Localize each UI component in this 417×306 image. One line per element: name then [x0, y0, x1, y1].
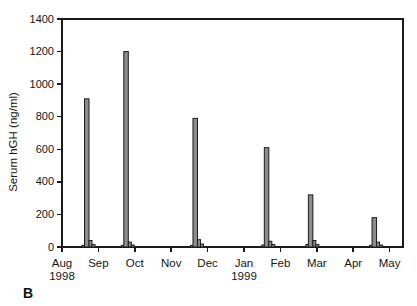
x-year-label: 1999: [231, 270, 257, 282]
bar-peak: [264, 148, 269, 247]
panel-label: B: [23, 285, 33, 301]
bar-peak: [85, 99, 90, 247]
x-tick-label: Apr: [344, 257, 362, 269]
y-tick-label: 800: [36, 110, 54, 122]
bar-minor: [316, 245, 319, 247]
x-tick-label: Aug: [52, 257, 72, 269]
serum-hgh-chart: 0200400600800100012001400Aug1998SepOctNo…: [0, 0, 417, 306]
bar-peak: [308, 195, 313, 247]
bar-minor: [380, 245, 383, 247]
y-tick-label: 0: [48, 241, 54, 253]
x-tick-label: Nov: [161, 257, 182, 269]
x-tick-label: Mar: [307, 257, 327, 269]
bar-minor: [272, 245, 275, 247]
bar-minor: [131, 245, 134, 247]
x-tick-label: May: [379, 257, 401, 269]
y-axis-title: Serum hGH (ng/ml): [7, 92, 19, 192]
x-tick-label: Dec: [197, 257, 218, 269]
plot-border: [62, 19, 403, 247]
x-tick-label: Sep: [88, 257, 108, 269]
y-tick-label: 400: [36, 175, 54, 187]
x-tick-label: Feb: [270, 257, 290, 269]
y-tick-label: 1000: [30, 78, 54, 90]
y-tick-label: 200: [36, 208, 54, 220]
x-tick-label: Jan: [235, 257, 254, 269]
bar-peak: [124, 52, 128, 247]
plot-area: 0200400600800100012001400Aug1998SepOctNo…: [30, 13, 403, 283]
figure-panel-b: 0200400600800100012001400Aug1998SepOctNo…: [0, 0, 417, 306]
bar-minor: [200, 244, 203, 247]
y-tick-label: 1400: [30, 13, 54, 25]
x-tick-label: Oct: [126, 257, 145, 269]
y-tick-label: 1200: [30, 45, 54, 57]
bar-minor: [92, 245, 95, 247]
bar-peak: [193, 118, 198, 247]
x-year-label: 1998: [49, 270, 75, 282]
y-tick-label: 600: [36, 143, 54, 155]
bar-peak: [372, 218, 377, 247]
